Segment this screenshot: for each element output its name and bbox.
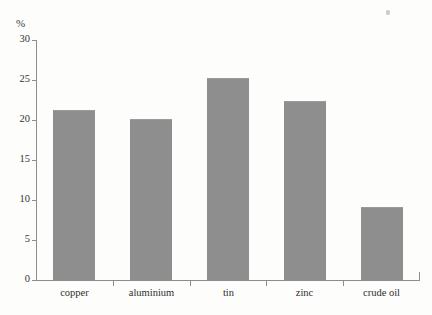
x-axis-label-copper: copper xyxy=(36,287,113,298)
x-axis-separator-tick xyxy=(113,280,114,286)
y-axis-tick-label: 5 xyxy=(8,234,30,245)
bar-aluminium xyxy=(130,119,172,281)
y-axis-tick-label: 0 xyxy=(8,274,30,285)
bar-zinc xyxy=(284,101,326,281)
y-axis-tick xyxy=(32,40,37,41)
x-axis-label-crude-oil: crude oil xyxy=(343,287,420,298)
bar-chart: % 051015202530 copperaluminiumtinzinccru… xyxy=(0,0,432,315)
x-axis-separator-tick xyxy=(190,280,191,286)
y-axis-tick xyxy=(32,160,37,161)
x-axis-label-zinc: zinc xyxy=(266,287,343,298)
bar-tin xyxy=(207,78,249,281)
x-axis-label-aluminium: aluminium xyxy=(113,287,190,298)
y-axis-tick xyxy=(32,120,37,121)
bar-copper xyxy=(53,110,95,281)
y-axis-tick-label: 15 xyxy=(8,154,30,165)
y-axis-tick-label: 20 xyxy=(8,114,30,125)
y-axis-tick-label: 10 xyxy=(8,194,30,205)
bar-crude-oil xyxy=(361,207,403,281)
y-axis-tick-label: 30 xyxy=(8,34,30,45)
y-axis-ticks: 051015202530 xyxy=(0,0,30,315)
y-axis-tick xyxy=(32,240,37,241)
y-axis-tick xyxy=(32,280,37,281)
x-axis-label-tin: tin xyxy=(190,287,267,298)
x-axis-separator-tick xyxy=(343,280,344,286)
y-axis-tick xyxy=(32,80,37,81)
y-axis-tick-label: 25 xyxy=(8,74,30,85)
x-axis-end-tick xyxy=(419,272,420,281)
scan-speck xyxy=(386,10,390,15)
x-axis-separator-tick xyxy=(266,280,267,286)
y-axis-tick xyxy=(32,200,37,201)
